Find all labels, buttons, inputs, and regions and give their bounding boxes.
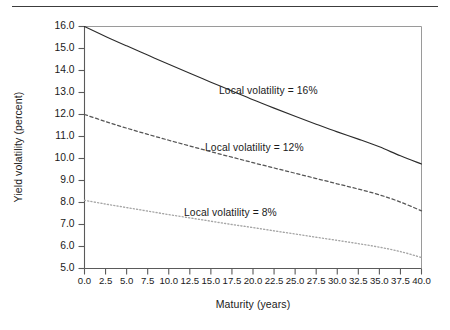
series-line xyxy=(85,200,422,257)
chart-figure: Yield volatility (percent) Maturity (yea… xyxy=(0,0,450,330)
data-series-group xyxy=(85,27,422,258)
series-line xyxy=(85,115,422,211)
series-line xyxy=(85,27,422,165)
plot-canvas xyxy=(0,0,450,330)
tick-marks xyxy=(79,27,422,275)
axes-frame xyxy=(85,27,422,269)
